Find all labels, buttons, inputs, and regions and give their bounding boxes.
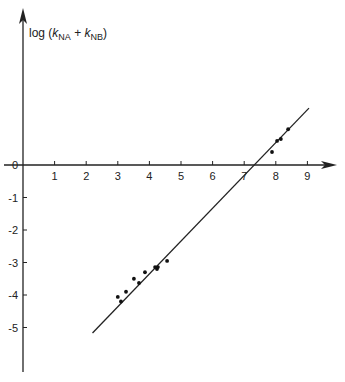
x-tick-label: 2 [83, 170, 89, 182]
data-point [124, 290, 128, 294]
y-tick-label: -4 [8, 289, 18, 301]
data-point [165, 259, 169, 263]
data-point [119, 300, 123, 304]
data-point [143, 270, 147, 274]
data-point [137, 281, 141, 285]
y-tick-label: -5 [8, 322, 18, 334]
x-tick-label: 1 [52, 170, 58, 182]
data-point [270, 150, 274, 154]
data-point [275, 139, 279, 143]
y-axis-label: log (kNA + kNB) [29, 26, 107, 42]
x-tick-label: 4 [146, 170, 152, 182]
x-tick-label: 5 [178, 170, 184, 182]
y-tick-label: 0 [12, 159, 18, 171]
x-tick-label: 9 [304, 170, 310, 182]
data-point [116, 295, 120, 299]
y-tick-label: -2 [8, 224, 18, 236]
chart: 1234567890-1-2-3-4-5log (kNA + kNB) [0, 0, 345, 382]
x-tick-label: 6 [210, 170, 216, 182]
data-point [286, 127, 290, 131]
y-tick-label: -3 [8, 257, 18, 269]
y-tick-label: -1 [8, 192, 18, 204]
data-point [279, 137, 283, 141]
data-point [132, 277, 136, 281]
x-tick-label: 8 [273, 170, 279, 182]
x-tick-label: 3 [115, 170, 121, 182]
data-point [156, 265, 160, 269]
